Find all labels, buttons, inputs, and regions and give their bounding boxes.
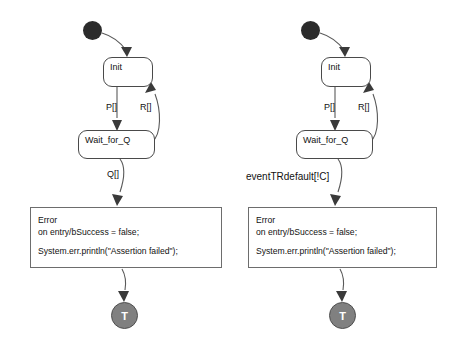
error-body-statement: System.err.println("Assertion failed");	[256, 246, 436, 258]
error-body-statement: System.err.println("Assertion failed");	[38, 246, 221, 258]
transition-label-q: Q[]	[107, 170, 119, 179]
diagram-canvas: Init Wait_for_Q P[] R[] Q[] Error on ent…	[0, 0, 462, 343]
state-wait-for-q[interactable]: Wait_for_Q	[296, 130, 373, 159]
state-init[interactable]: Init	[103, 57, 153, 87]
error-state-name: Error	[256, 215, 436, 227]
state-error[interactable]: Error on entry/bSuccess = false; System.…	[30, 207, 222, 268]
state-wait-for-q[interactable]: Wait_for_Q	[78, 130, 155, 159]
error-spacer	[256, 238, 436, 246]
initial-pseudostate	[301, 21, 320, 40]
transition-label-event-tr-default: eventTRdefault[!C]	[246, 172, 329, 182]
transition-label-p: P[]	[324, 103, 335, 112]
transition-label-r: R[]	[140, 103, 152, 112]
state-machine-right: Init Wait_for_Q P[] R[] eventTRdefault[!…	[218, 0, 449, 343]
initial-pseudostate	[83, 21, 102, 40]
terminal-node: T	[111, 302, 138, 329]
terminal-node: T	[329, 302, 356, 329]
state-error[interactable]: Error on entry/bSuccess = false; System.…	[248, 207, 437, 268]
error-spacer	[38, 238, 221, 246]
state-machine-left: Init Wait_for_Q P[] R[] Q[] Error on ent…	[0, 0, 231, 343]
state-init[interactable]: Init	[321, 57, 371, 87]
error-state-name: Error	[38, 215, 221, 227]
transition-label-p: P[]	[106, 103, 117, 112]
error-entry-action: on entry/bSuccess = false;	[38, 227, 221, 239]
transition-label-r: R[]	[358, 103, 370, 112]
error-entry-action: on entry/bSuccess = false;	[256, 227, 436, 239]
